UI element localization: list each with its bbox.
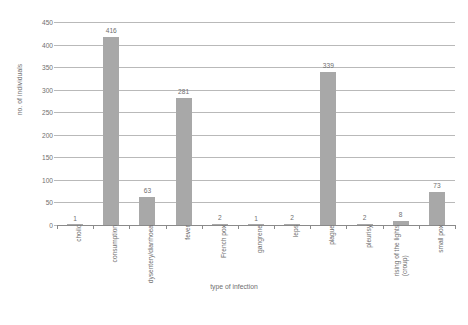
- x-axis-label-line: dysentery/diarrhoea: [147, 225, 155, 283]
- x-axis-label-line: (croup): [400, 225, 408, 276]
- bars-group: 1416632812123392873: [57, 22, 455, 225]
- bar-group[interactable]: 2: [202, 22, 238, 225]
- x-axis-category-label: plague: [328, 225, 336, 245]
- x-axis-title: type of infection: [0, 283, 468, 290]
- bar-group[interactable]: 1: [57, 22, 93, 225]
- bar-group[interactable]: 281: [166, 22, 202, 225]
- x-axis-category-label: gangrene: [256, 225, 264, 253]
- bar[interactable]: [103, 37, 119, 225]
- y-axis-tick-label: 150: [42, 154, 53, 161]
- y-axis-tick-label: 200: [42, 131, 53, 138]
- x-axis-category-label: dysentery/diarrhoea: [147, 225, 155, 283]
- x-axis-label-line: pleurisy: [365, 225, 373, 248]
- y-axis-tick-label: 50: [46, 199, 53, 206]
- y-axis-tick-label: 250: [42, 109, 53, 116]
- bar[interactable]: [176, 98, 192, 225]
- bar-value-label: 2: [218, 214, 222, 221]
- bar-value-label: 2: [290, 214, 294, 221]
- plot-area: 050100150200250300350400450 141663281212…: [57, 22, 455, 225]
- bar-value-label: 339: [323, 62, 334, 69]
- bar-value-label: 1: [254, 215, 258, 222]
- bar[interactable]: [139, 197, 155, 225]
- bar-group[interactable]: 8: [383, 22, 419, 225]
- y-axis-tick-label: 300: [42, 86, 53, 93]
- x-axis-category-label: choilc: [75, 225, 83, 242]
- y-axis-tick-label: 400: [42, 41, 53, 48]
- x-axis-tick-mark: [455, 225, 456, 229]
- bar-group[interactable]: 63: [129, 22, 165, 225]
- x-axis-label-line: leps: [292, 225, 300, 237]
- bar[interactable]: [320, 72, 336, 225]
- bar-value-label: 1: [73, 215, 77, 222]
- x-axis-label-line: consumption: [111, 225, 119, 262]
- x-axis-category-label: French pox: [220, 225, 228, 258]
- x-axis-label-line: fever: [184, 225, 192, 240]
- x-axis-label-line: plague: [328, 225, 336, 245]
- x-axis-category-label: small pox: [437, 225, 445, 253]
- x-axis-category-label: fever: [184, 225, 192, 240]
- bar-group[interactable]: 1: [238, 22, 274, 225]
- x-axis-category-label: pleurisy: [365, 225, 373, 248]
- y-axis-title: no. of individuals: [16, 35, 23, 145]
- bar-group[interactable]: 2: [274, 22, 310, 225]
- y-axis-tick-label: 0: [49, 222, 53, 229]
- bar-group[interactable]: 2: [346, 22, 382, 225]
- x-axis-category-label: rising of the lights(croup): [393, 225, 408, 276]
- bar-value-label: 63: [144, 187, 151, 194]
- x-axis-label-line: rising of the lights: [393, 225, 401, 276]
- bar-chart: no. of individuals 050100150200250300350…: [0, 0, 468, 325]
- bar[interactable]: [429, 192, 445, 225]
- bar-value-label: 416: [106, 27, 117, 34]
- bar-group[interactable]: 416: [93, 22, 129, 225]
- y-axis-tick-label: 450: [42, 19, 53, 26]
- x-axis-category-label: leps: [292, 225, 300, 237]
- bar-value-label: 281: [178, 88, 189, 95]
- x-axis-category-label: consumption: [111, 225, 119, 262]
- y-axis-tick-label: 350: [42, 64, 53, 71]
- bar-group[interactable]: 73: [419, 22, 455, 225]
- x-axis-label-line: gangrene: [256, 225, 264, 253]
- x-axis-label-line: small pox: [437, 225, 445, 253]
- bar-group[interactable]: 339: [310, 22, 346, 225]
- bar-value-label: 8: [399, 211, 403, 218]
- bar-value-label: 73: [433, 182, 440, 189]
- x-axis-label-line: choilc: [75, 225, 83, 242]
- bar-value-label: 2: [363, 214, 367, 221]
- x-axis-label-line: French pox: [220, 225, 228, 258]
- y-axis-tick-label: 100: [42, 176, 53, 183]
